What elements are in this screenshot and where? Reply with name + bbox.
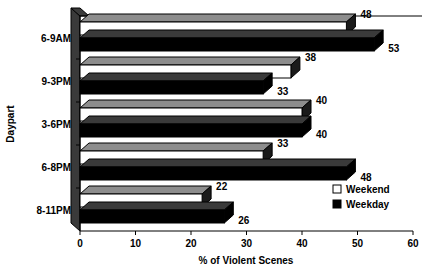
x-tick-label: 50 xyxy=(352,238,364,249)
legend-swatch-weekday xyxy=(333,200,341,208)
y-category-label: 8-11PM xyxy=(37,205,71,216)
bar-chart: 0102030405060 48533833404033482226 6-9AM… xyxy=(0,0,437,278)
y-axis-title: Daypart xyxy=(5,105,16,143)
bar-8-11PM-Weekday xyxy=(80,202,233,223)
bar-top-face xyxy=(80,116,311,124)
bar-value-label: 38 xyxy=(305,52,317,63)
bar-top-face xyxy=(80,202,233,210)
legend-label-weekend: Weekend xyxy=(346,184,390,195)
x-tick-label: 30 xyxy=(241,238,253,249)
x-tick-label: 10 xyxy=(130,238,142,249)
bar-value-label: 53 xyxy=(388,43,400,54)
bar-value-label: 33 xyxy=(277,138,289,149)
bar-6-9AM-Weekday xyxy=(80,30,383,51)
bar-front-face xyxy=(80,167,346,180)
y-category-label: 6-9AM xyxy=(41,33,71,44)
bar-top-face xyxy=(80,100,311,108)
bar-top-face xyxy=(80,57,300,65)
bar-value-label: 48 xyxy=(360,172,372,183)
y-category-label: 3-6PM xyxy=(42,119,71,130)
bar-top-face xyxy=(80,159,355,167)
bar-top-face xyxy=(80,186,211,194)
y-category-label: 9-3PM xyxy=(42,76,71,87)
bar-top-face xyxy=(80,14,355,22)
bar-front-face xyxy=(80,210,224,223)
bar-value-label: 33 xyxy=(277,86,289,97)
bar-value-label: 48 xyxy=(360,9,372,20)
bar-6-8PM-Weekday xyxy=(80,159,355,180)
x-axis-title: % of Violent Scenes xyxy=(199,255,294,266)
chart-container: 0102030405060 48533833404033482226 6-9AM… xyxy=(0,0,437,278)
bar-value-label: 26 xyxy=(238,215,250,226)
bar-front-face xyxy=(80,38,374,51)
legend-swatch-weekend xyxy=(333,185,341,193)
x-tick-label: 40 xyxy=(296,238,308,249)
y-category-label: 6-8PM xyxy=(42,162,71,173)
x-tick-label: 0 xyxy=(77,238,83,249)
x-tick-label: 60 xyxy=(407,238,419,249)
bar-value-label: 40 xyxy=(316,95,328,106)
bar-value-label: 22 xyxy=(216,181,228,192)
bar-9-3PM-Weekday xyxy=(80,73,272,94)
bar-3-6PM-Weekday xyxy=(80,116,311,137)
bar-front-face xyxy=(80,124,302,137)
x-tick-label: 20 xyxy=(185,238,197,249)
bar-value-label: 40 xyxy=(316,129,328,140)
bar-front-face xyxy=(80,81,263,94)
bar-top-face xyxy=(80,73,272,81)
bar-top-face xyxy=(80,143,272,151)
legend-label-weekday: Weekday xyxy=(346,199,390,210)
bar-top-face xyxy=(80,30,383,38)
